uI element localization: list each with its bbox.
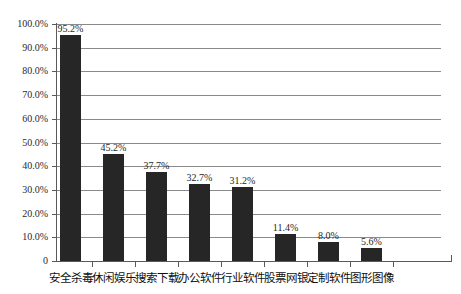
x-tick bbox=[221, 261, 222, 267]
x-tick bbox=[135, 261, 136, 267]
bar-value-label: 31.2% bbox=[220, 176, 266, 186]
bar-group: 11.4% bbox=[275, 24, 296, 261]
bar-value-label: 5.6% bbox=[349, 237, 395, 247]
bar-group: 5.6% bbox=[361, 24, 382, 261]
bar[interactable] bbox=[275, 234, 296, 261]
x-tick bbox=[307, 261, 308, 267]
bar-group: 45.2% bbox=[103, 24, 124, 261]
bar-value-label: 11.4% bbox=[263, 223, 309, 233]
bar[interactable] bbox=[318, 242, 339, 261]
bar[interactable] bbox=[361, 248, 382, 261]
x-tick bbox=[350, 261, 351, 267]
bar-value-label: 37.7% bbox=[134, 161, 180, 171]
bars: 95.2%45.2%37.7%32.7%31.2%11.4%8.0%5.6% bbox=[0, 24, 461, 261]
x-tick bbox=[92, 261, 93, 267]
x-tick bbox=[178, 261, 179, 267]
bar[interactable] bbox=[189, 184, 210, 261]
x-tick bbox=[264, 261, 265, 267]
bar-chart: 100.0%90.0%80.0%70.0%60.0%50.0%40.0%30.0… bbox=[0, 0, 461, 294]
bar-value-label: 32.7% bbox=[177, 173, 223, 183]
bar[interactable] bbox=[60, 35, 81, 261]
bar-group: 95.2% bbox=[60, 24, 81, 261]
bar[interactable] bbox=[232, 187, 253, 261]
category-label: 图形图像 bbox=[342, 272, 402, 284]
bar-value-label: 45.2% bbox=[91, 143, 137, 153]
x-tick bbox=[393, 261, 394, 267]
bar[interactable] bbox=[146, 172, 167, 261]
bar-group: 31.2% bbox=[232, 24, 253, 261]
bar-value-label: 8.0% bbox=[306, 231, 352, 241]
bar-value-label: 95.2% bbox=[48, 24, 94, 34]
bar[interactable] bbox=[103, 154, 124, 261]
bar-group: 37.7% bbox=[146, 24, 167, 261]
bar-group: 32.7% bbox=[189, 24, 210, 261]
bar-group: 8.0% bbox=[318, 24, 339, 261]
